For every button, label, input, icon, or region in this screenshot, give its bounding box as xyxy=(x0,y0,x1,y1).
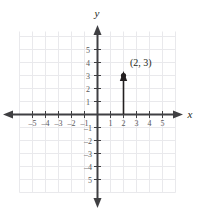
y-tick-label: –3 xyxy=(83,150,92,159)
data-point-label: (2, 3) xyxy=(130,57,152,69)
y-axis-label: y xyxy=(94,7,100,19)
y-tick-label: 2 xyxy=(86,85,90,94)
y-tick-label: 3 xyxy=(86,72,90,81)
x-tick-label: –3 xyxy=(54,119,63,128)
plotted-data: (2, 3) xyxy=(120,57,152,114)
axes xyxy=(3,25,183,208)
y-tick-label: 5 xyxy=(86,46,90,55)
x-tick-label: –2 xyxy=(67,119,76,128)
y-tick-label: –2 xyxy=(83,137,92,146)
x-tick-label: 2 xyxy=(122,119,126,128)
x-axis-left-arrow-icon xyxy=(3,111,13,119)
coordinate-plane-svg: –5 –4 –3 –2 –1 1 2 3 4 5 5 4 3 2 1 –1 –2… xyxy=(0,0,199,216)
x-tick-label: 1 xyxy=(109,119,113,128)
x-tick-label: 3 xyxy=(135,119,139,128)
x-axis-label: x xyxy=(187,108,193,120)
y-tick-label: –4 xyxy=(83,163,92,172)
y-tick-label: 5 xyxy=(88,176,92,185)
coordinate-plane-figure: –5 –4 –3 –2 –1 1 2 3 4 5 5 4 3 2 1 –1 –2… xyxy=(0,0,199,216)
x-axis-tick-labels: –5 –4 –3 –2 –1 1 2 3 4 5 xyxy=(28,119,165,128)
x-tick-label: 5 xyxy=(161,119,165,128)
y-tick-label: –1 xyxy=(83,124,92,133)
x-axis-right-arrow-icon xyxy=(173,111,183,119)
y-axis-bottom-arrow-icon xyxy=(94,198,102,208)
x-tick-label: –4 xyxy=(41,119,50,128)
y-axis-top-arrow-icon xyxy=(94,25,102,35)
data-point xyxy=(121,73,126,78)
x-tick-label: –5 xyxy=(28,119,37,128)
y-tick-label: 1 xyxy=(86,98,90,107)
y-tick-label: 4 xyxy=(86,59,90,68)
x-tick-label: 4 xyxy=(148,119,152,128)
